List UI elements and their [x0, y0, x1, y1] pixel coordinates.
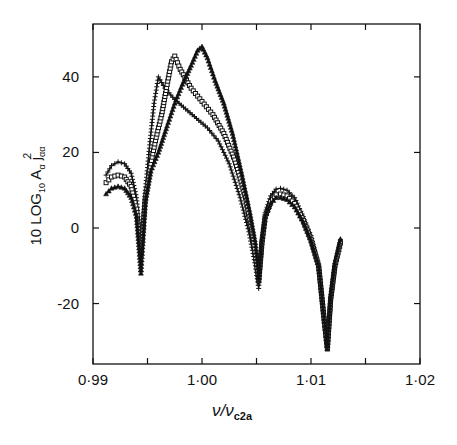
plus-marker	[239, 201, 244, 206]
plot-frame	[93, 24, 420, 364]
plus-marker	[155, 81, 160, 86]
plus-marker	[231, 174, 236, 179]
plus-marker	[230, 171, 235, 176]
axis-tick-labels: 0·991·001·011·0240200-20	[57, 68, 435, 388]
plus-marker	[238, 195, 243, 200]
plus-marker	[238, 198, 243, 203]
y-axis-title: 10 LOG10 Aα jαα2	[22, 146, 47, 245]
plus-marker	[153, 91, 158, 96]
series-line	[106, 77, 340, 345]
x-axis-title: ν/νc2a	[212, 401, 253, 422]
plus-marker	[235, 186, 240, 191]
plus-marker	[130, 177, 135, 182]
axis-ticks	[93, 24, 420, 364]
plus-marker	[237, 192, 242, 197]
x-tick-label: 1·01	[296, 371, 326, 388]
x-tick-label: 1·00	[187, 371, 217, 388]
plus-marker	[154, 88, 159, 93]
y-tick-label: 20	[62, 143, 79, 160]
y-tick-label: -20	[57, 295, 79, 312]
chart: 0·991·001·011·0240200-20 ν/νc2a 10 LOG10…	[0, 0, 457, 445]
plus-marker	[229, 167, 234, 172]
plus-marker	[119, 160, 124, 165]
x-tick-label: 1·02	[405, 371, 435, 388]
plus-marker	[129, 174, 134, 179]
plus-marker	[232, 177, 237, 182]
plus-marker	[228, 164, 233, 169]
x-tick-label: 0·99	[78, 371, 108, 388]
y-tick-label: 0	[71, 219, 79, 236]
series-plus-markers	[104, 74, 343, 347]
plus-marker	[152, 101, 157, 106]
plus-marker	[278, 186, 283, 191]
series-triangle-markers	[104, 44, 343, 351]
plus-marker	[236, 189, 241, 194]
data-series	[104, 44, 343, 351]
plus-marker	[281, 187, 286, 192]
plus-marker	[153, 94, 158, 99]
plus-marker	[233, 180, 238, 185]
plus-marker	[234, 183, 239, 188]
plus-marker	[152, 98, 157, 103]
y-tick-label: 40	[62, 68, 79, 85]
series-line	[106, 47, 340, 349]
plus-marker	[154, 84, 159, 89]
